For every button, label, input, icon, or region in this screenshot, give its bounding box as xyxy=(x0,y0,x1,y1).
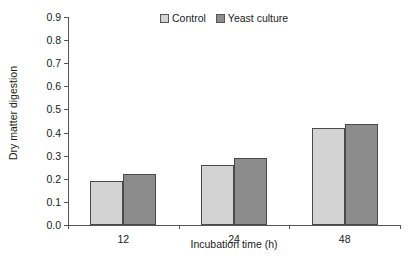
x-tick-mark xyxy=(289,225,290,229)
y-tick-mark xyxy=(64,109,68,110)
bar-chart: Control Yeast culture Dry matter digesti… xyxy=(0,0,420,273)
y-tick-label: 0.7 xyxy=(46,57,61,69)
bar-control-12 xyxy=(90,181,123,225)
x-tick-mark xyxy=(68,225,69,229)
y-tick-label: 0.4 xyxy=(46,127,61,139)
y-tick-label: 0.1 xyxy=(46,196,61,208)
bar-yeast-culture-12 xyxy=(123,174,156,225)
bar-yeast-culture-24 xyxy=(234,158,267,225)
y-tick-mark xyxy=(64,40,68,41)
y-tick-label: 0.9 xyxy=(46,11,61,23)
y-tick-mark xyxy=(64,179,68,180)
x-axis-line xyxy=(68,225,400,226)
y-tick-mark xyxy=(64,156,68,157)
y-tick-label: 0.6 xyxy=(46,80,61,92)
y-tick-mark xyxy=(64,202,68,203)
y-tick-label: 0.0 xyxy=(46,219,61,231)
x-axis-title: Incubation time (h) xyxy=(68,238,400,250)
plot-area: 0.90.80.70.60.50.40.30.20.10.0 122448 xyxy=(68,17,400,225)
y-tick-mark xyxy=(64,86,68,87)
x-tick-mark xyxy=(400,225,401,229)
bar-control-48 xyxy=(312,128,345,225)
y-tick-label: 0.8 xyxy=(46,34,61,46)
y-tick-mark xyxy=(64,63,68,64)
y-axis-title-text: Dry matter digestion xyxy=(7,66,19,160)
bar-control-24 xyxy=(201,165,234,225)
y-tick-label: 0.3 xyxy=(46,150,61,162)
y-tick-label: 0.5 xyxy=(46,103,61,115)
x-tick-mark xyxy=(179,225,180,229)
y-tick-mark xyxy=(64,17,68,18)
y-tick-label: 0.2 xyxy=(46,173,61,185)
y-axis-title: Dry matter digestion xyxy=(0,0,26,225)
y-axis-line xyxy=(68,17,69,225)
bar-yeast-culture-48 xyxy=(345,124,378,225)
y-tick-mark xyxy=(64,133,68,134)
